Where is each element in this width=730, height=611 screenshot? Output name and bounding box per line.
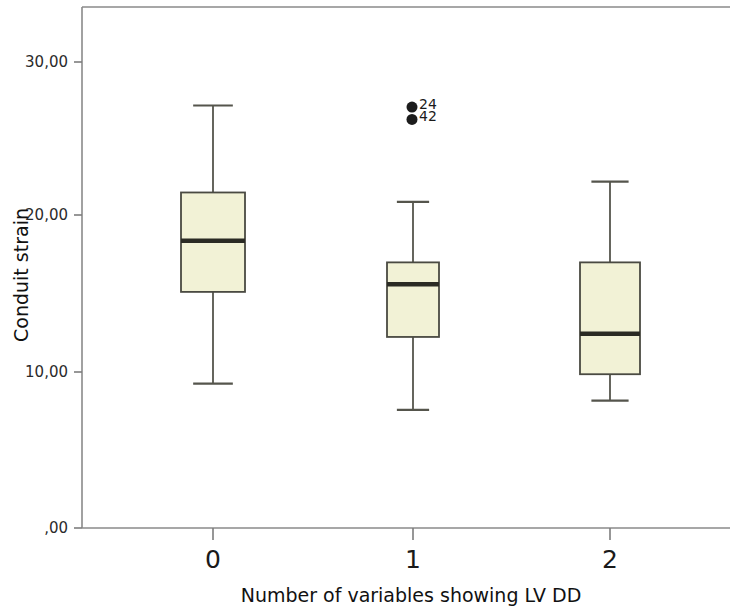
outlier-label: 42: [419, 108, 437, 124]
x-axis-title: Number of variables showing LV DD: [241, 584, 582, 606]
y-axis-ticks: 30,00 20,00 10,00 ,00: [25, 53, 82, 537]
box-group-1: 2442: [387, 96, 439, 410]
y-tick-label-30: 30,00: [25, 53, 68, 71]
x-tick-label-2: 2: [602, 545, 618, 574]
y-tick-label-0: ,00: [44, 519, 68, 537]
box-series-layer: 2442: [181, 96, 640, 410]
x-tick-label-0: 0: [205, 545, 221, 574]
box-group-0: [181, 105, 245, 383]
boxplot-canvas: 30,00 20,00 10,00 ,00 Conduit strain 0 1…: [0, 0, 730, 611]
y-tick-label-10: 10,00: [25, 363, 68, 381]
boxplot-figure: 30,00 20,00 10,00 ,00 Conduit strain 0 1…: [0, 0, 730, 611]
y-axis-title: Conduit strain: [10, 208, 32, 342]
box-group-2: [580, 182, 640, 401]
outlier-point: [407, 102, 418, 113]
outlier-point: [407, 114, 418, 125]
box-iqr-rect: [580, 262, 640, 374]
x-axis-ticks: 0 1 2: [205, 528, 618, 574]
box-iqr-rect: [387, 262, 439, 337]
x-tick-label-1: 1: [405, 545, 421, 574]
